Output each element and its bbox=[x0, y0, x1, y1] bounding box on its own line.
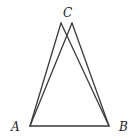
segment-a-c-right bbox=[30, 23, 72, 126]
label-a: A bbox=[10, 120, 20, 134]
segment-c-right-b bbox=[72, 23, 109, 126]
label-b: B bbox=[118, 120, 128, 134]
label-c: C bbox=[63, 6, 72, 20]
triangle-diagram: C A B bbox=[0, 0, 139, 140]
segment-c-left-b bbox=[61, 23, 109, 126]
segment-a-c-left bbox=[30, 23, 61, 126]
